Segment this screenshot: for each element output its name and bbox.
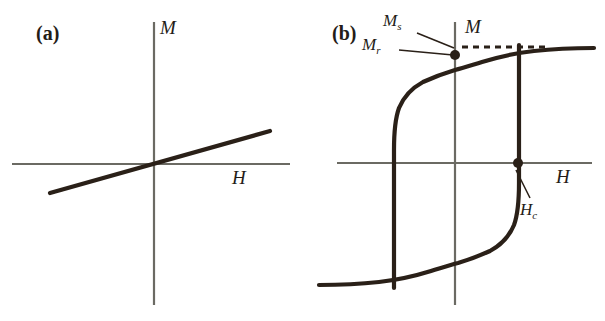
hc-base: H	[520, 200, 532, 219]
panel-a-y-axis-label: M	[160, 17, 176, 39]
panel-b-y-axis-label: M	[465, 16, 481, 38]
mr-leader-line	[399, 50, 453, 55]
panel-b-plot	[302, 0, 605, 321]
coercive-field-label: Hc	[520, 200, 537, 221]
hc-subscript: c	[532, 209, 537, 221]
panel-a: (a) M H	[0, 0, 302, 321]
panel-a-plot	[0, 0, 302, 321]
panel-a-x-axis-label: H	[232, 167, 246, 189]
ms-subscript: s	[397, 20, 401, 32]
hysteresis-lower-branch	[319, 45, 519, 285]
mr-subscript: r	[376, 44, 380, 56]
remanent-magnetization-label: Mr	[362, 35, 380, 56]
saturation-magnetization-label: Ms	[383, 11, 401, 32]
panel-b-x-axis-label: H	[556, 166, 570, 188]
mr-base: M	[362, 35, 376, 54]
coercivity-marker-dot	[513, 158, 523, 168]
remanence-marker-dot	[450, 50, 460, 60]
ms-base: M	[383, 11, 397, 30]
panel-b: (b) M H Ms Mr Hc	[302, 0, 605, 321]
magnetization-figure: (a) M H (b)	[0, 0, 605, 321]
ms-leader-line	[417, 33, 454, 48]
